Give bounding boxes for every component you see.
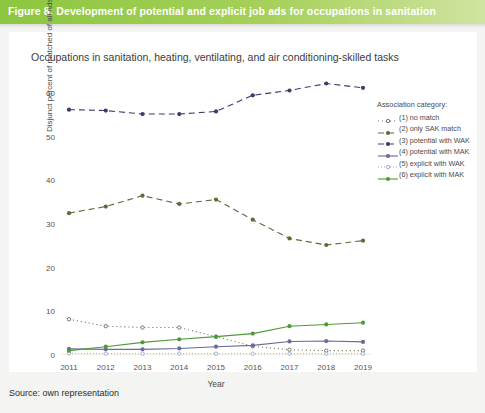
legend-rows: (1) no match(2) only SAK match(3) potent… — [377, 112, 485, 180]
legend-item-label: (1) no match — [399, 113, 439, 122]
legend-marker-icon — [377, 124, 399, 134]
data-point — [214, 345, 218, 349]
x-tick-label: 2013 — [134, 363, 152, 372]
legend-item-potential-with-wak[interactable]: (3) potential with WAK — [377, 135, 485, 145]
data-point — [67, 211, 71, 215]
figure-banner: Figure 8: Development of potential and e… — [0, 0, 485, 24]
figure-page: Figure 8: Development of potential and e… — [0, 0, 485, 413]
chart-card: Occupations in sanitation, heating, vent… — [9, 32, 477, 372]
data-point — [141, 352, 144, 355]
legend-marker-icon — [377, 112, 399, 122]
data-point — [141, 326, 144, 329]
legend-item-label: (5) explicit with WAK — [399, 159, 465, 168]
y-axis-label: Disjunct percent of matched of all ads — [45, 0, 54, 132]
x-tick-label: 2011 — [60, 363, 77, 372]
legend-item-label: (6) explicit with MAK — [399, 170, 464, 179]
data-point — [140, 112, 144, 116]
legend-marker-icon — [377, 147, 399, 157]
data-point — [287, 236, 291, 240]
data-point — [361, 239, 365, 243]
legend-item-potential-with-mak[interactable]: (4) potential with MAK — [377, 147, 485, 157]
legend-item-no-match[interactable]: (1) no match — [377, 112, 485, 122]
legend-item-label: (4) potential with MAK — [399, 147, 469, 156]
data-point — [287, 88, 291, 92]
legend-marker-icon — [377, 158, 399, 168]
data-point — [177, 346, 181, 350]
legend-item-label: (2) only SAK match — [399, 124, 461, 133]
series-only-sak-match — [67, 194, 365, 248]
data-point — [104, 204, 108, 208]
data-point — [361, 340, 365, 344]
y-tick-label: 20 — [46, 263, 55, 272]
data-point — [214, 109, 218, 113]
y-tick-label: 40 — [46, 176, 55, 185]
chart-title: Occupations in sanitation, heating, vent… — [31, 51, 399, 63]
data-point — [177, 112, 181, 116]
x-tick-label: 2018 — [317, 363, 335, 372]
data-point — [67, 318, 70, 321]
data-point — [178, 326, 181, 329]
data-point — [67, 349, 71, 353]
data-point — [140, 347, 144, 351]
data-point — [104, 324, 107, 327]
data-point — [324, 81, 328, 85]
data-point — [178, 352, 181, 355]
x-tick-label: 2017 — [281, 363, 299, 372]
series-line — [69, 196, 363, 245]
banner-shadow — [0, 24, 485, 28]
legend-item-only-sak-match[interactable]: (2) only SAK match — [377, 124, 485, 134]
series-potential-with-mak — [67, 339, 365, 352]
data-point — [287, 324, 291, 328]
data-point — [288, 348, 291, 351]
data-point — [361, 352, 364, 355]
data-point — [361, 86, 365, 90]
x-tick-label: 2016 — [244, 363, 262, 372]
series-explicit-with-wak — [67, 352, 364, 356]
data-point — [140, 340, 144, 344]
legend-item-label: (3) potential with WAK — [399, 136, 470, 145]
data-point — [251, 343, 255, 347]
data-point — [324, 243, 328, 247]
legend: Association category: (1) no match(2) on… — [377, 100, 485, 181]
legend-item-explicit-with-mak[interactable]: (6) explicit with MAK — [377, 170, 485, 180]
data-point — [251, 93, 255, 97]
y-tick-label: 10 — [46, 307, 55, 316]
data-point — [140, 194, 144, 198]
legend-marker-icon — [377, 170, 399, 180]
legend-item-explicit-with-wak[interactable]: (5) explicit with WAK — [377, 158, 485, 168]
x-tick-label: 2012 — [97, 363, 115, 372]
data-point — [104, 345, 108, 349]
y-tick-label: 0 — [51, 351, 55, 360]
data-point — [214, 198, 218, 202]
data-point — [251, 352, 254, 355]
data-point — [324, 339, 328, 343]
x-tick-label: 2015 — [207, 363, 225, 372]
data-point — [67, 108, 71, 112]
series-potential-with-wak — [67, 81, 365, 116]
data-point — [177, 202, 181, 206]
series-layer — [61, 80, 371, 355]
y-tick-label: 50 — [46, 132, 55, 141]
data-point — [214, 335, 218, 339]
data-point — [251, 218, 255, 222]
data-point — [287, 339, 291, 343]
y-tick-label: 30 — [46, 220, 55, 229]
data-point — [104, 108, 108, 112]
figure-caption: Figure 8: Development of potential and e… — [8, 5, 436, 17]
data-point — [361, 321, 365, 325]
source-note: Source: own representation — [9, 388, 119, 398]
legend-marker-icon — [377, 135, 399, 145]
x-tick-label: 2014 — [170, 363, 188, 372]
data-point — [325, 352, 328, 355]
data-point — [251, 332, 255, 336]
x-tick-label: 2019 — [354, 363, 372, 372]
data-point — [288, 352, 291, 355]
data-point — [324, 322, 328, 326]
y-tick-label: 60 — [46, 89, 55, 98]
legend-title: Association category: — [377, 100, 485, 109]
data-point — [214, 352, 217, 355]
plot-area: Disjunct percent of matched of all ads Y… — [61, 80, 371, 355]
data-point — [177, 337, 181, 341]
data-point — [104, 352, 107, 355]
